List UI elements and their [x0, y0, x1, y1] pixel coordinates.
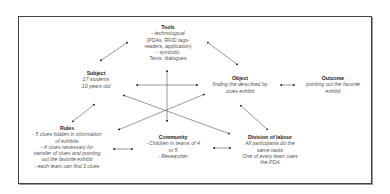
node-object: Object finding the described by clues ex…	[198, 75, 282, 94]
node-object-line: clues exhibit	[198, 88, 282, 94]
node-rules: Rules - 5 clues hidden in information of…	[20, 125, 114, 169]
edge-subject-division	[123, 95, 230, 134]
node-rules-line: - 5 clues hidden in information	[20, 131, 114, 137]
node-division-of-labour: Division of labour All participants do t…	[228, 134, 312, 165]
node-outcome-line: pointing out the favorite	[295, 81, 371, 87]
node-subject-line: 10 years old	[66, 83, 126, 89]
node-outcome: Outcome pointing out the favorite exhibi…	[295, 75, 371, 94]
edge-object-rules	[118, 94, 205, 130]
edge-object-division	[240, 105, 268, 130]
edge-subject-tools	[100, 42, 128, 61]
node-outcome-line: exhibit	[295, 88, 371, 94]
edge-subject-rules	[72, 104, 95, 122]
node-community-line: - Researcher	[133, 153, 213, 159]
edge-tools-object	[207, 42, 238, 65]
node-tools: Tools - technological (PDAs, RFID tags- …	[128, 24, 208, 62]
node-community: Community - Children in teams of 4 or 5 …	[133, 134, 213, 159]
node-tools-line: Texts, dialogues	[128, 55, 208, 61]
node-subject: Subject 17 students 10 years old	[66, 70, 126, 89]
node-rules-line: - each team can find 3 clues	[20, 163, 114, 169]
node-division-line: the PDA	[228, 159, 312, 165]
